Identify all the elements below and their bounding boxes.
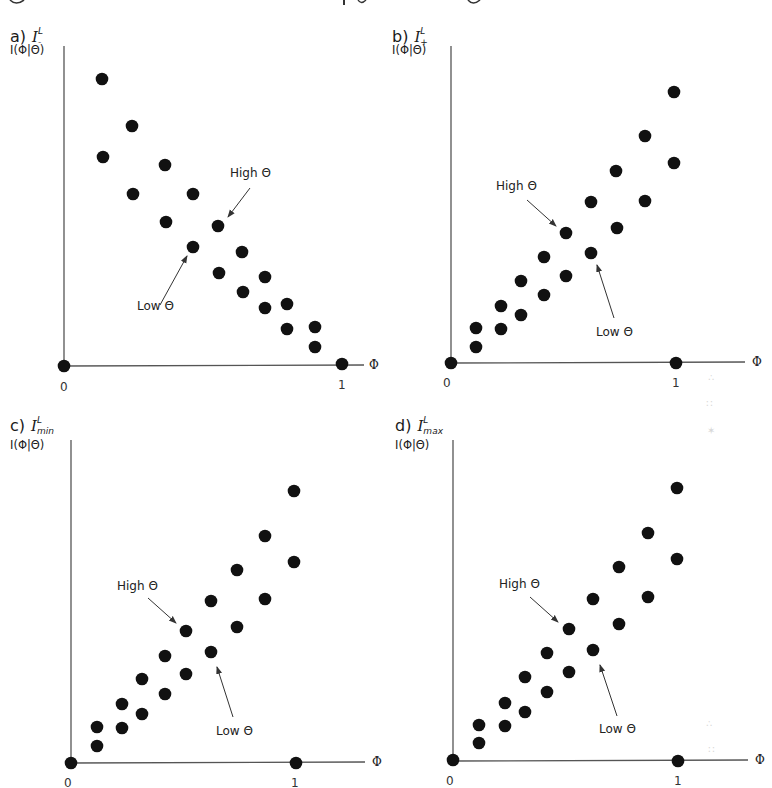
panel-c-superscript: L <box>37 415 42 425</box>
panel-c-low-theta-label: Low Θ <box>216 724 253 738</box>
panel-a-xlabel: Φ <box>369 358 379 372</box>
data-point <box>309 341 322 354</box>
data-point <box>671 482 684 495</box>
data-point <box>672 755 685 768</box>
panel-b-tick-1: 1 <box>672 376 680 390</box>
data-point <box>642 591 655 604</box>
data-point <box>336 358 349 371</box>
panel-b-low-theta-label: Low Θ <box>596 325 633 339</box>
panel-c-x-axis <box>71 762 365 763</box>
data-point <box>642 527 655 540</box>
scan-artifact: ∷ <box>706 398 712 409</box>
panel-b-ylabel: I(Φ|Θ) <box>392 43 426 57</box>
panel-d-title: d)ILmax <box>395 416 443 435</box>
data-point <box>205 595 218 608</box>
panel-b-superscript: L <box>420 26 425 36</box>
panel-c-plot <box>65 440 365 769</box>
data-point <box>127 188 140 201</box>
panel-b-high-theta-label: High Θ <box>496 179 537 193</box>
data-point <box>187 188 200 201</box>
data-point <box>668 157 681 170</box>
panel-b-tick-0: 0 <box>443 376 451 390</box>
data-point <box>213 267 226 280</box>
data-point <box>668 86 681 99</box>
data-point <box>445 357 458 370</box>
panel-a-x-axis <box>64 365 364 366</box>
panel-d-high-theta-label: High Θ <box>499 577 540 591</box>
data-point <box>288 485 301 498</box>
panel-d-low-theta-label: Low Θ <box>599 722 636 736</box>
data-point <box>519 706 532 719</box>
data-point <box>587 593 600 606</box>
panel-d-low-theta-arrow <box>600 665 617 716</box>
panel-c-high-theta-label: High Θ <box>117 579 158 593</box>
panel-d-plot <box>447 440 748 767</box>
panel-c-ylabel: I(Φ|Θ) <box>10 438 44 452</box>
data-point <box>236 246 249 259</box>
scan-artifact: ∷ <box>708 744 714 755</box>
data-point <box>495 300 508 313</box>
data-point <box>538 251 551 264</box>
data-point <box>671 553 684 566</box>
data-point <box>309 321 322 334</box>
panel-a-low-theta-label: Low Θ <box>137 299 174 313</box>
data-point <box>288 556 301 569</box>
data-point <box>58 360 71 373</box>
panel-b-xlabel: Φ <box>752 355 762 369</box>
panel-a-ylabel: I(Φ|Θ) <box>10 43 44 57</box>
data-point <box>613 561 626 574</box>
panel-d-tick-1: 1 <box>674 774 682 788</box>
data-point <box>613 618 626 631</box>
data-point <box>499 720 512 733</box>
figure: a)IL- I(Φ|Θ) Φ 0 1 High Θ Low Θ b)IL+ I(… <box>0 0 772 788</box>
panel-c-title: c)ILmin <box>10 416 54 435</box>
panel-d-ylabel: I(Φ|Θ) <box>395 438 429 452</box>
data-point <box>519 671 532 684</box>
data-point <box>259 593 272 606</box>
data-point <box>159 159 172 172</box>
data-point <box>97 151 110 164</box>
panel-a-high-theta-label: High Θ <box>230 166 271 180</box>
data-point <box>136 673 149 686</box>
panel-c-xlabel: Φ <box>372 755 382 769</box>
data-point <box>231 621 244 634</box>
data-point <box>259 530 272 543</box>
data-point <box>259 271 272 284</box>
data-point <box>538 289 551 302</box>
data-point <box>180 668 193 681</box>
panel-d-x-axis <box>453 760 748 761</box>
panel-d-letter: d) <box>395 416 411 435</box>
data-point <box>237 286 250 299</box>
panel-c-low-theta-arrow <box>217 667 233 717</box>
scatter-plots <box>0 0 772 788</box>
data-point <box>259 302 272 315</box>
data-point <box>65 757 78 770</box>
panel-b-high-theta-arrow <box>527 200 556 226</box>
data-point <box>231 564 244 577</box>
data-point <box>560 227 573 240</box>
data-point <box>470 322 483 335</box>
data-point <box>611 222 624 235</box>
data-point <box>541 686 554 699</box>
data-point <box>160 216 173 229</box>
panel-a-low-theta-arrow <box>160 256 187 305</box>
panel-c-subscript: min <box>37 426 54 436</box>
panel-d-subscript: max <box>423 426 443 436</box>
panel-a-tick-0: 0 <box>60 380 68 394</box>
data-point <box>126 120 139 133</box>
panel-a-superscript: L <box>38 26 43 36</box>
data-point <box>447 754 460 767</box>
data-point <box>585 247 598 260</box>
scan-artifact: ∴ <box>708 372 714 383</box>
data-point <box>281 298 294 311</box>
data-point <box>91 721 104 734</box>
data-point <box>159 688 172 701</box>
data-point <box>91 740 104 753</box>
data-point <box>473 719 486 732</box>
data-point <box>585 196 598 209</box>
data-point <box>212 220 225 233</box>
panel-c-tick-1: 1 <box>291 776 299 788</box>
data-point <box>159 650 172 663</box>
panel-c-high-theta-arrow <box>148 598 176 623</box>
data-point <box>281 323 294 336</box>
